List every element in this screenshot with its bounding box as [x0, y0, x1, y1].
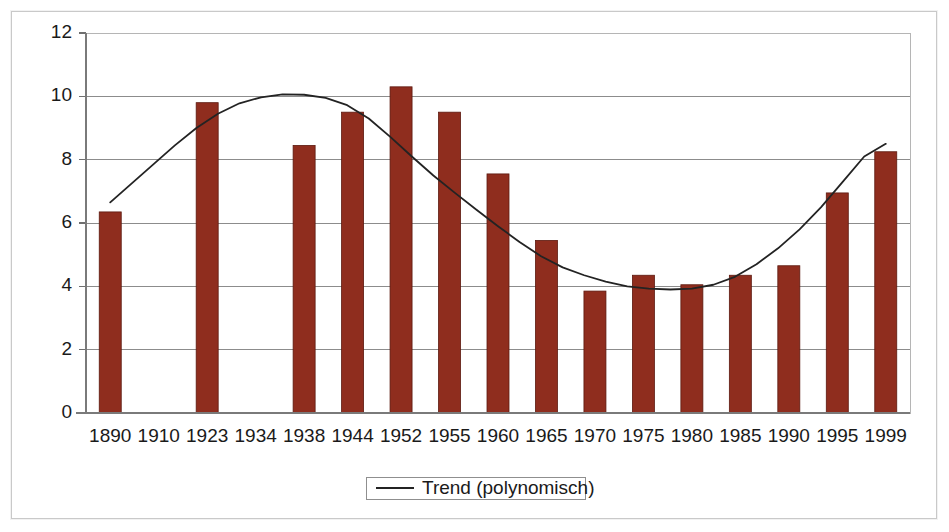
x-tick-label-1934: 1934	[235, 425, 278, 446]
chart-legend: Trend (polynomisch)	[366, 477, 594, 499]
x-tick-label-1970: 1970	[574, 425, 616, 446]
x-tick-label-1952: 1952	[380, 425, 422, 446]
bar-1970	[584, 291, 606, 413]
y-tickmarks	[79, 33, 86, 413]
bar-1944	[342, 112, 364, 413]
y-tick-label: 10	[51, 84, 72, 105]
y-tick-label: 4	[61, 274, 72, 295]
y-tick-label: 2	[61, 338, 72, 359]
chart-screenshot: 024681012 189019101923193419381944195219…	[0, 0, 949, 532]
x-tick-label-1944: 1944	[331, 425, 374, 446]
y-tick-label: 8	[61, 148, 72, 169]
bar-1995	[826, 193, 848, 413]
y-tick-label: 6	[61, 211, 72, 232]
bar-1923	[196, 103, 218, 413]
x-tick-label-1990: 1990	[768, 425, 810, 446]
x-tick-label-1980: 1980	[671, 425, 713, 446]
y-tick-label: 12	[51, 21, 72, 42]
y-tick-label: 0	[61, 401, 72, 422]
x-tick-label-1938: 1938	[283, 425, 325, 446]
x-tick-label-1910: 1910	[138, 425, 180, 446]
bar-1990	[778, 266, 800, 413]
x-axis-tick-labels: 1890191019231934193819441952195519601965…	[89, 425, 907, 446]
bar-1960	[487, 174, 509, 413]
chart-svg: 024681012 189019101923193419381944195219…	[0, 0, 949, 532]
x-tick-label-1955: 1955	[428, 425, 470, 446]
x-tick-label-1999: 1999	[865, 425, 907, 446]
x-tick-label-1985: 1985	[719, 425, 761, 446]
legend-entry-label: Trend (polynomisch)	[422, 477, 594, 498]
bar-1985	[729, 275, 751, 413]
bar-1975	[632, 275, 654, 413]
bar-1938	[293, 145, 315, 413]
chart-canvas: 024681012 189019101923193419381944195219…	[0, 0, 949, 532]
bar-1952	[390, 87, 412, 413]
x-tick-label-1890: 1890	[89, 425, 131, 446]
x-tick-label-1960: 1960	[477, 425, 519, 446]
bar-1999	[875, 152, 897, 413]
bar-1965	[535, 240, 557, 413]
x-tick-label-1965: 1965	[525, 425, 567, 446]
bar-1980	[681, 285, 703, 413]
bar-1890	[99, 212, 121, 413]
x-tick-label-1975: 1975	[622, 425, 664, 446]
bar-1955	[439, 112, 461, 413]
y-axis-tick-labels: 024681012	[51, 21, 73, 422]
x-tick-label-1995: 1995	[816, 425, 858, 446]
x-tick-label-1923: 1923	[186, 425, 228, 446]
